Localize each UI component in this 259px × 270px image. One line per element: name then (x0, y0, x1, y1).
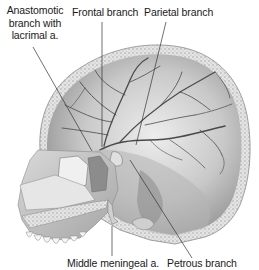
label-anastomotic-line-2: branch with (2, 17, 68, 30)
label-anastomotic-line-3: lacrimal a. (2, 29, 68, 42)
label-anastomotic-line-1: Anastomotic (2, 4, 68, 17)
label-frontal-branch: Frontal branch (72, 6, 138, 19)
label-petrous-branch: Petrous branch (167, 257, 237, 270)
label-middle-meningeal-artery: Middle meningeal a. (67, 257, 159, 270)
label-parietal-branch: Parietal branch (144, 6, 213, 19)
label-anastomotic-branch: Anastomotic branch with lacrimal a. (2, 4, 68, 42)
